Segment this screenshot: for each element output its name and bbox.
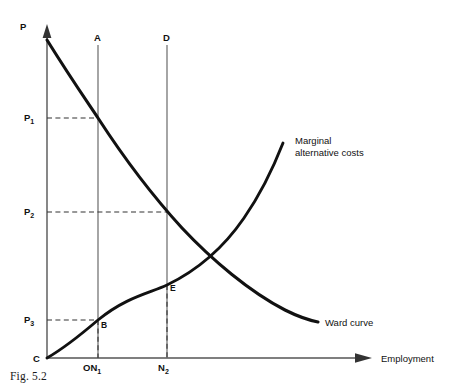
y-tick-label-p3: P3 xyxy=(24,314,34,327)
y-tick-labels-group: P1 P2 P3 xyxy=(24,112,34,327)
axes-group xyxy=(43,24,372,363)
ward-curve-path xyxy=(47,40,318,322)
point-label-b: B xyxy=(101,320,107,330)
marginal-alternative-costs-label-line1: Marginal xyxy=(295,135,331,146)
origin-label-c: C xyxy=(33,353,40,364)
x-axis-label: Employment xyxy=(381,353,434,364)
y-axis-label: P xyxy=(20,21,27,32)
y-tick-p3-subscript: 3 xyxy=(30,320,34,327)
marginal-alternative-costs-label-line2: alternative costs xyxy=(295,147,364,158)
x-axis-arrowhead xyxy=(355,353,372,363)
vertical-line-label-d: D xyxy=(163,32,170,43)
dashed-guides-group xyxy=(47,118,168,358)
curves-group xyxy=(47,40,318,358)
x-tick-label-n2: N2 xyxy=(158,362,169,375)
y-tick-label-p1: P1 xyxy=(24,112,34,125)
x-tick-on1-base: ON xyxy=(83,362,97,373)
vertical-line-label-a: A xyxy=(94,32,101,43)
y-tick-p2-subscript: 2 xyxy=(30,212,34,219)
x-tick-label-on1: ON1 xyxy=(83,362,101,375)
y-tick-label-p2: P2 xyxy=(24,206,34,219)
figure-container: P Employment C P1 P2 P3 ON1 N2 A D xyxy=(0,0,452,392)
figure-caption: Fig. 5.2 xyxy=(10,370,47,382)
point-label-e: E xyxy=(170,283,176,293)
ward-curve-label: Ward curve xyxy=(325,317,373,328)
x-tick-n2-subscript: 2 xyxy=(165,368,169,375)
x-tick-labels-group: ON1 N2 xyxy=(83,362,169,375)
y-tick-p1-subscript: 1 xyxy=(30,118,34,125)
y-axis-arrowhead xyxy=(43,24,52,38)
marginal-alternative-costs-path xyxy=(47,143,283,358)
economics-chart: P Employment C P1 P2 P3 ON1 N2 A D xyxy=(0,0,452,392)
x-tick-on1-subscript: 1 xyxy=(97,368,101,375)
